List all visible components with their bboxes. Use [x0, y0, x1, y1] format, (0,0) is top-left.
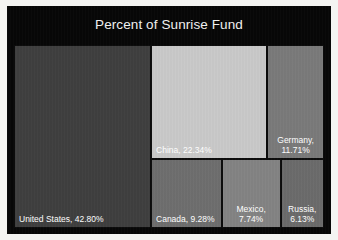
treemap-tile-mexico[interactable]: Mexico, 7.74% [222, 159, 281, 228]
treemap-tile-label-germany: Germany, 11.71% [270, 135, 321, 155]
treemap-tile-russia[interactable]: Russia, 6.13% [281, 159, 324, 228]
treemap-tile-label-united-states: United States, 42.80% [19, 214, 147, 224]
treemap-tile-canada[interactable]: Canada, 9.28% [151, 159, 222, 228]
treemap-tile-label-mexico: Mexico, 7.74% [225, 204, 278, 224]
treemap-tile-united-states[interactable]: United States, 42.80% [14, 45, 151, 228]
chart-canvas: Percent of Sunrise Fund United States, 4… [7, 6, 331, 234]
treemap-tile-germany[interactable]: Germany, 11.71% [267, 45, 324, 159]
treemap-tile-label-china: China, 22.34% [156, 145, 263, 155]
treemap-tile-label-russia: Russia, 6.13% [284, 204, 321, 224]
treemap-plot-area: United States, 42.80%China, 22.34%German… [14, 45, 324, 228]
treemap-tile-label-canada: Canada, 9.28% [156, 214, 218, 224]
page-root: Percent of Sunrise Fund United States, 4… [0, 0, 338, 240]
chart-title: Percent of Sunrise Fund [7, 17, 331, 32]
treemap-tile-china[interactable]: China, 22.34% [151, 45, 267, 159]
